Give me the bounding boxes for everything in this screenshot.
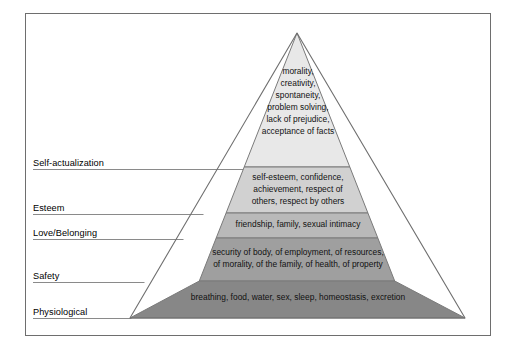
tier-description-safety: security of body, of employment, of reso…	[140, 247, 456, 271]
maslow-hierarchy-diagram: Self-actualization Esteem Love/Belonging…	[0, 0, 515, 354]
tier-label-esteem: Esteem	[33, 204, 64, 213]
tier-description-love-belonging: friendship, family, sexual intimacy	[160, 219, 436, 231]
tier-label-love-belonging: Love/Belonging	[33, 229, 97, 238]
tier-description-physiological: breathing, food, water, sex, sleep, home…	[120, 292, 476, 304]
tier-label-physiological: Physiological	[33, 308, 87, 317]
tier-description-esteem: self-esteem, confidence, achievement, re…	[196, 172, 400, 208]
tier-description-self-actualization: morality, creativity, spontaneity, probl…	[206, 66, 390, 138]
tier-label-self-actualization: Self-actualization	[33, 159, 104, 168]
tier-label-safety: Safety	[33, 272, 59, 281]
pyramid-stage: Self-actualization Esteem Love/Belonging…	[0, 0, 515, 354]
